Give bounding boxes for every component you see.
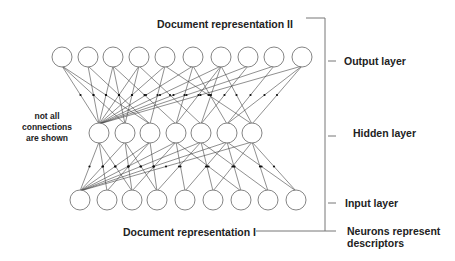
- output-neuron: [52, 47, 72, 67]
- output-neuron: [103, 47, 123, 67]
- arrowhead-icon: [233, 165, 235, 167]
- document-representation-i-title: Document representation I: [123, 226, 256, 238]
- note-line-1: not all: [12, 111, 82, 122]
- output-neuron: [238, 47, 258, 67]
- arrowhead-icon: [152, 165, 154, 167]
- arrowhead-icon: [260, 165, 262, 167]
- hidden-neuron: [115, 123, 135, 143]
- arrowhead-icon: [131, 94, 133, 96]
- arrowhead-icon: [185, 94, 187, 96]
- arrowhead-icon: [105, 94, 107, 96]
- output-neuron: [183, 47, 203, 67]
- arrowhead-icon: [235, 94, 237, 96]
- output-neuron: [264, 47, 284, 67]
- input-neuron: [231, 190, 251, 210]
- arrowhead-icon: [140, 165, 142, 167]
- descriptors-label: Neurons represent descriptors: [347, 225, 440, 249]
- output-neuron: [211, 47, 231, 67]
- arrowhead-icon: [156, 94, 158, 96]
- arrowhead-icon: [223, 94, 225, 96]
- arrowhead-icon: [183, 94, 185, 96]
- output-neuron: [129, 47, 149, 67]
- descriptors-line-1: Neurons represent: [347, 225, 440, 237]
- input-neuron: [122, 190, 142, 210]
- input-layer-label: Input layer: [345, 197, 398, 209]
- input-neuron: [258, 190, 278, 210]
- arrowhead-icon: [102, 165, 104, 167]
- output-neuron: [292, 47, 312, 67]
- hidden-layer-label: Hidden layer: [353, 127, 416, 139]
- hidden-neuron: [89, 123, 109, 143]
- arrowhead-icon: [159, 94, 161, 96]
- hidden-output-connections: [62, 66, 302, 124]
- arrowhead-icon: [172, 94, 174, 96]
- output-neuron: [155, 47, 175, 67]
- arrowhead-icon: [118, 94, 120, 96]
- arrowhead-icon: [249, 94, 251, 96]
- input-layer-neurons: [70, 190, 306, 210]
- arrowhead-icon: [127, 165, 129, 167]
- output-neuron: [78, 47, 98, 67]
- hidden-neuron: [140, 123, 160, 143]
- arrowhead-icon: [273, 165, 275, 167]
- descriptors-line-2: descriptors: [347, 237, 440, 249]
- arrowhead-icon: [88, 165, 90, 167]
- arrowhead-icon: [199, 94, 201, 96]
- note-line-2: connections: [12, 122, 82, 133]
- arrowhead-icon: [207, 165, 209, 167]
- input-neuron: [286, 190, 306, 210]
- hidden-neuron: [166, 123, 186, 143]
- arrowhead-icon: [92, 94, 94, 96]
- arrowhead-icon: [143, 94, 145, 96]
- note-line-3: are shown: [12, 133, 82, 144]
- input-neuron: [147, 190, 167, 210]
- arrowhead-icon: [179, 165, 181, 167]
- arrowhead-icon: [114, 165, 116, 167]
- arrowhead-icon: [276, 94, 278, 96]
- arrowhead-icon: [165, 165, 167, 167]
- input-neuron: [175, 190, 195, 210]
- arrowhead-icon: [207, 94, 209, 96]
- input-neuron: [97, 190, 117, 210]
- hidden-neuron: [217, 123, 237, 143]
- document-representation-ii-title: Document representation II: [157, 18, 293, 30]
- input-neuron: [203, 190, 223, 210]
- output-layer-label: Output layer: [344, 55, 406, 67]
- hidden-neuron: [191, 123, 211, 143]
- arrowhead-icon: [197, 94, 199, 96]
- hidden-neuron: [242, 123, 262, 143]
- arrowhead-icon: [263, 94, 265, 96]
- connections-note: not all connections are shown: [12, 111, 82, 144]
- arrowhead-icon: [169, 94, 171, 96]
- hidden-layer-neurons: [89, 123, 262, 143]
- input-neuron: [70, 190, 90, 210]
- input-hidden-connections: [80, 142, 296, 191]
- output-layer-neurons: [52, 47, 312, 67]
- arrowhead-icon: [79, 94, 81, 96]
